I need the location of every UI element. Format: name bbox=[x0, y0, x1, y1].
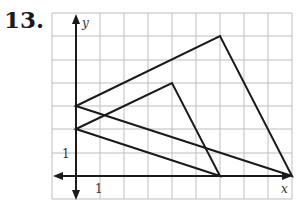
y-axis-arrow-up bbox=[72, 14, 80, 24]
x-axis-arrow-left bbox=[53, 172, 63, 180]
axes bbox=[58, 20, 290, 195]
x-axis-label: x bbox=[281, 182, 288, 196]
coordinate-plane: y x 1 1 bbox=[0, 0, 303, 219]
x-tick-label: 1 bbox=[95, 182, 103, 196]
y-axis-label: y bbox=[81, 16, 89, 30]
y-tick-label: 1 bbox=[62, 147, 70, 161]
